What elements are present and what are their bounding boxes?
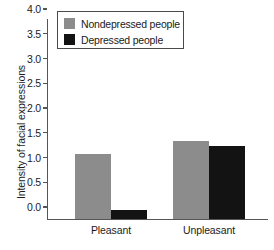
y-tick-mark xyxy=(43,157,47,158)
legend-item-nondepressed-people: Nondepressed people xyxy=(64,16,183,31)
legend-swatch-icon xyxy=(64,18,75,29)
y-tick-1.0: 1.0 xyxy=(27,152,47,164)
y-tick-mark xyxy=(43,58,47,59)
bar-pleasant-nondepressed-people xyxy=(75,154,111,219)
bar-unpleasant-nondepressed-people xyxy=(173,141,209,219)
y-tick-3.0: 3.0 xyxy=(27,53,47,65)
x-category-label-unpleasant: Unpleasant xyxy=(159,224,259,236)
chart-legend: Nondepressed peopleDepressed people xyxy=(57,11,184,49)
y-tick-label: 0.5 xyxy=(27,176,43,188)
y-tick-label: 1.0 xyxy=(27,152,43,164)
x-axis-line xyxy=(47,219,268,220)
y-tick-2.0: 2.0 xyxy=(27,102,47,114)
legend-swatch-icon xyxy=(64,34,75,45)
y-tick-label: 2.5 xyxy=(27,77,43,89)
y-tick-0.5: 0.5 xyxy=(27,176,47,188)
bar-chart-figure: Intensity of facial expressions 0.00.51.… xyxy=(0,0,274,250)
legend-item-depressed-people: Depressed people xyxy=(64,32,183,47)
y-tick-mark xyxy=(43,107,47,108)
y-tick-label: 3.0 xyxy=(27,53,43,65)
y-tick-label: 1.5 xyxy=(27,127,43,139)
y-tick-label: 0.0 xyxy=(27,201,43,213)
y-tick-0.0: 0.0 xyxy=(27,201,47,213)
y-tick-label: 2.0 xyxy=(27,102,43,114)
y-tick-mark xyxy=(43,206,47,207)
bar-pleasant-depressed-people xyxy=(111,210,147,219)
y-tick-label: 3.5 xyxy=(27,28,43,40)
y-tick-1.5: 1.5 xyxy=(27,127,47,139)
y-axis-title: Intensity of facial expressions xyxy=(15,42,27,222)
y-tick-2.5: 2.5 xyxy=(27,77,47,89)
legend-label: Depressed people xyxy=(81,34,163,46)
plot-area: 0.00.51.01.52.02.53.03.54.0 xyxy=(47,21,268,219)
y-tick-4.0: 4.0 xyxy=(27,3,47,15)
y-tick-mark xyxy=(43,182,47,183)
y-tick-label: 4.0 xyxy=(27,3,43,15)
legend-label: Nondepressed people xyxy=(81,18,180,30)
y-tick-mark xyxy=(43,33,47,34)
y-tick-mark xyxy=(43,83,47,84)
bar-unpleasant-depressed-people xyxy=(209,146,245,219)
x-category-label-pleasant: Pleasant xyxy=(61,224,161,236)
y-tick-mark xyxy=(43,8,47,9)
y-tick-mark xyxy=(43,132,47,133)
y-tick-3.5: 3.5 xyxy=(27,28,47,40)
